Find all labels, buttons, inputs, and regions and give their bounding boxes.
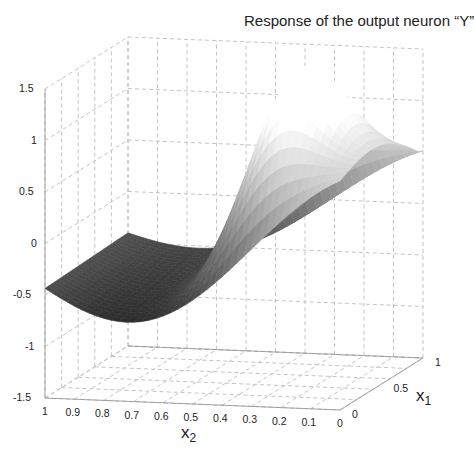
- z-tick-label: -1: [25, 340, 34, 352]
- grid-line: [45, 192, 128, 244]
- grid-line: [78, 377, 373, 389]
- x1-tick-label: 0.5: [394, 382, 409, 394]
- x2-tick-label: 0.2: [272, 415, 287, 427]
- z-tick-label: -1.5: [13, 391, 31, 403]
- x2-axis-label: x2: [181, 423, 196, 445]
- grid-line: [75, 347, 158, 399]
- z-tick-label: 1.5: [19, 82, 34, 94]
- z-tick-label: -0.5: [13, 288, 31, 300]
- x2-tick-label: 0.9: [66, 406, 81, 418]
- grid-line: [111, 356, 406, 368]
- x2-tick-label: 0: [337, 417, 343, 429]
- grid-line: [45, 37, 128, 89]
- z-tick-label: 0: [31, 237, 37, 249]
- x2-tick-label: 1: [42, 405, 48, 417]
- x2-tick-label: 0.8: [95, 407, 110, 419]
- z-tick-label: 0.5: [19, 185, 34, 197]
- x1-tick-label: 0: [352, 408, 358, 420]
- x2-tick-label: 0.1: [302, 416, 317, 428]
- grid-line: [128, 346, 423, 358]
- x1-tick-label: 1: [435, 356, 441, 368]
- grid-line: [62, 388, 357, 400]
- grid-line: [95, 367, 390, 379]
- grid-line: [45, 140, 128, 192]
- x2-tick-label: 0.4: [213, 412, 228, 424]
- grid-line: [45, 346, 128, 398]
- x2-tick-label: 0.7: [125, 409, 140, 421]
- grid-line: [45, 398, 340, 410]
- x2-tick-label: 0.3: [243, 413, 258, 425]
- x2-tick-label: 0.5: [184, 411, 199, 423]
- surface-mesh: [45, 66, 423, 323]
- grid-line: [45, 89, 128, 141]
- x1-axis-label: x1: [416, 386, 431, 408]
- chart-title: Response of the output neuron “Y”: [244, 12, 474, 29]
- z-tick-label: 1: [31, 134, 37, 146]
- x2-tick-label: 0.6: [154, 410, 169, 422]
